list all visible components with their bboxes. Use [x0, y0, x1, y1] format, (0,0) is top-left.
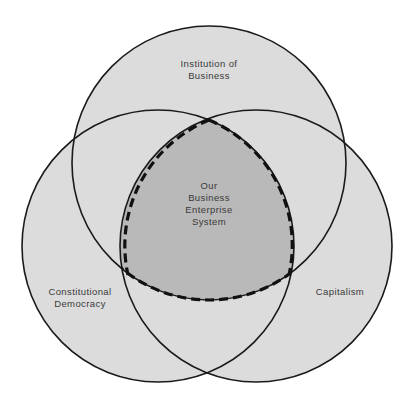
- label-capitalism: Capitalism: [300, 286, 380, 298]
- label-line: System: [169, 216, 249, 228]
- label-line: Capitalism: [300, 286, 380, 298]
- label-our-business-enterprise-system: Our Business Enterprise System: [169, 180, 249, 228]
- label-institution-of-business: Institution of Business: [159, 58, 259, 82]
- label-constitutional-democracy: Constitutional Democracy: [35, 286, 125, 310]
- label-line: Our: [169, 180, 249, 192]
- label-line: Enterprise: [169, 204, 249, 216]
- label-line: Business: [159, 70, 259, 82]
- label-line: Democracy: [35, 298, 125, 310]
- label-line: Institution of: [159, 58, 259, 70]
- label-line: Business: [169, 192, 249, 204]
- label-line: Constitutional: [35, 286, 125, 298]
